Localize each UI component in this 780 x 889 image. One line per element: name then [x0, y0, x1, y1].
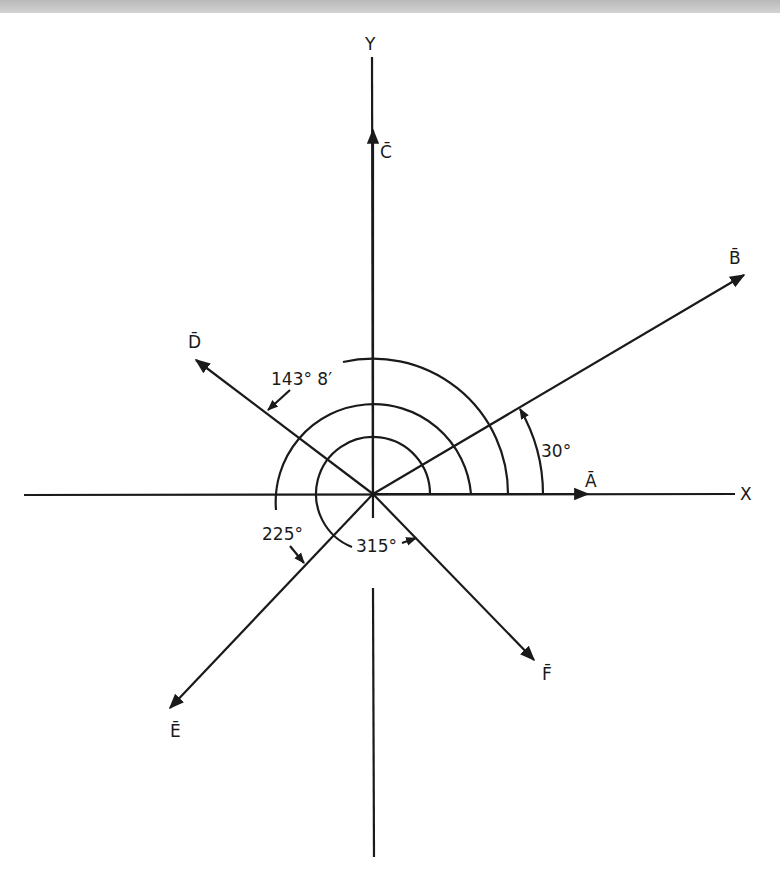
arc-30deg	[520, 409, 543, 494]
angle-label-315: 315°	[356, 536, 397, 556]
y-axis-label: Y	[364, 34, 376, 54]
angle-label-225: 225°	[262, 524, 303, 544]
vector-c-label: C̄	[380, 141, 392, 162]
vector-a-label: Ā	[585, 470, 597, 491]
y-axis-lower	[373, 588, 374, 857]
vector-f	[373, 494, 534, 660]
vector-f-label: F̄	[542, 663, 552, 684]
vector-e-label: Ē	[170, 720, 181, 741]
leader-315deg	[402, 538, 416, 543]
vector-d-label: D̄	[188, 331, 201, 352]
angle-label-30: 30°	[541, 441, 571, 461]
vector-b-label: B̄	[729, 247, 741, 268]
vector-b	[373, 275, 744, 494]
angle-label-143: 143° 8′	[271, 369, 332, 389]
leader-143deg	[268, 390, 290, 410]
leader-225deg	[290, 546, 304, 563]
x-axis-label: X	[740, 484, 752, 504]
vector-diagram: Y X Ā B̄ C̄ D̄ Ē F̄ 30° 143° 8′ 225° 315…	[0, 0, 780, 889]
